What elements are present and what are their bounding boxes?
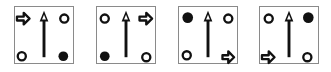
right-block-arrow-icon: [140, 13, 153, 25]
hollow-circle-icon: [18, 52, 26, 60]
panel-2: [96, 6, 156, 64]
right-block-arrow-icon: [262, 51, 275, 63]
panel-2-graphics: [97, 7, 155, 63]
hollow-circle-icon: [303, 53, 311, 61]
hollow-circle-icon: [183, 51, 191, 59]
up-arrow-icon: [40, 11, 49, 57]
filled-circle-icon: [182, 12, 193, 23]
right-block-arrow-icon: [222, 51, 234, 63]
filled-circle-icon: [58, 51, 68, 61]
right-block-arrow-icon: [17, 13, 30, 25]
hollow-circle-icon: [101, 15, 109, 23]
panel-3: [178, 6, 238, 64]
up-arrow-icon: [204, 11, 213, 57]
panel-4: [259, 6, 319, 64]
pattern-diagram: [0, 0, 331, 72]
filled-circle-icon: [100, 51, 110, 61]
filled-circle-icon: [303, 12, 314, 23]
panel-3-graphics: [179, 7, 237, 63]
up-arrow-icon: [122, 11, 131, 57]
hollow-circle-icon: [265, 15, 273, 23]
panel-1: [14, 6, 74, 64]
hollow-circle-icon: [142, 53, 150, 61]
hollow-circle-icon: [224, 15, 232, 23]
hollow-circle-icon: [60, 15, 68, 23]
panel-1-graphics: [15, 7, 73, 63]
up-arrow-icon: [285, 11, 294, 57]
panel-4-graphics: [260, 7, 318, 63]
